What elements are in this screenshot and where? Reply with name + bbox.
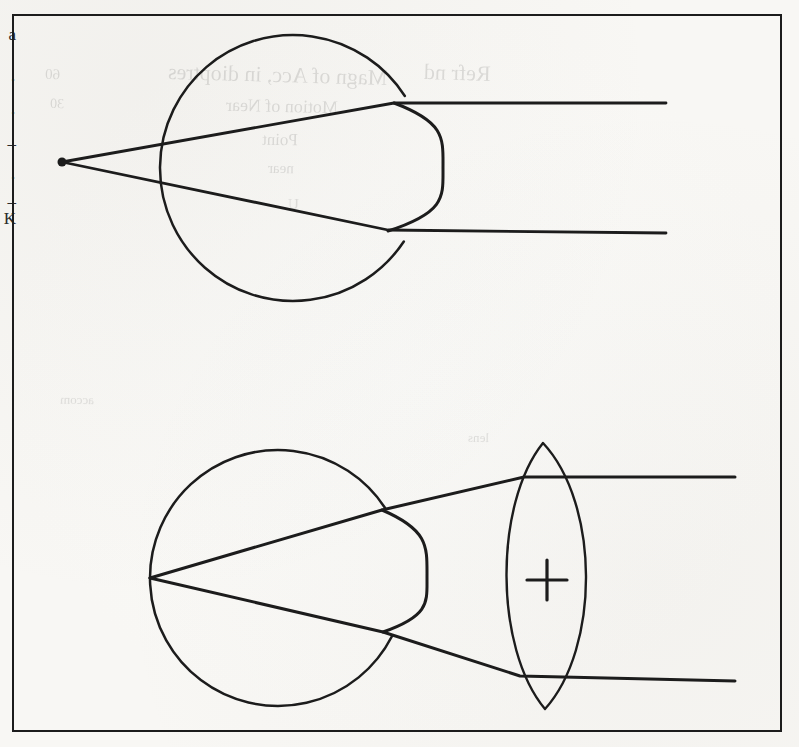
scanned-page: a··–·–K Magn of Acc, in dioptresRefr ndM…: [0, 0, 799, 747]
figure-border-frame: [12, 14, 782, 732]
